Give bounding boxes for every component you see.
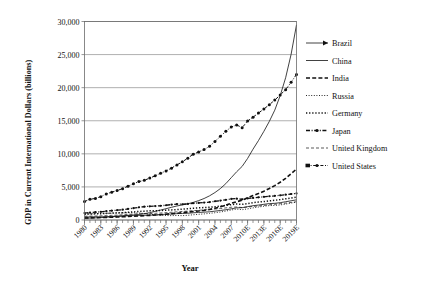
data-point [111,210,113,212]
data-point [214,200,216,202]
legend-label-united-kingdom: United Kingdom [332,144,388,153]
data-point [165,169,168,172]
x-tick-label: 2001 [186,223,203,240]
legend-marker-dot [315,164,318,167]
x-tick-label: 2019E [281,223,302,244]
data-point [241,126,244,129]
data-point [160,205,162,207]
data-series-group [83,25,298,219]
data-point [252,116,255,119]
x-tick-label: 1989 [121,223,138,240]
chart-legend: BrazilChinaIndiaRussiaGermanyJapanUnited… [306,39,388,171]
data-point [126,185,129,188]
data-point [257,112,260,115]
data-point [138,206,140,208]
data-point [284,88,287,91]
data-point [187,203,189,205]
data-point [154,205,156,207]
data-point [181,160,184,163]
y-tick-label: 10,000 [58,150,80,159]
legend-label-china: China [332,57,352,66]
data-point [105,192,108,195]
data-point [121,209,123,211]
chart-figure: 05,00010,00015,00020,00025,00030,000 198… [0,0,429,282]
data-point [186,157,189,160]
data-point [230,125,233,128]
data-point [290,193,292,195]
data-point [268,103,271,106]
y-axis-ticks: 05,00010,00015,00020,00025,00030,000 [58,18,85,226]
data-point [197,150,200,153]
data-point [100,211,102,213]
data-point [88,198,91,201]
x-tick-label: 1986 [104,223,121,240]
data-point [279,93,282,96]
data-point [268,195,270,197]
data-point [246,197,248,199]
data-point [154,174,157,177]
legend-label-japan: Japan [332,127,351,136]
data-point [224,130,227,133]
data-point [213,140,216,143]
data-point [252,197,254,199]
x-tick-label: 2010E [232,223,253,244]
data-point [236,198,238,200]
legend-arrow-icon [323,40,328,45]
data-point [208,145,211,148]
legend-marker-square [306,164,311,168]
data-point [159,172,162,175]
y-tick-label: 15,000 [58,117,80,126]
y-tick-label: 30,000 [58,18,80,27]
legend-label-germany: Germany [332,109,363,118]
data-point [192,153,195,156]
x-tick-label: 1995 [153,223,170,240]
data-point [170,203,172,205]
data-point [121,187,124,190]
data-point [148,177,151,180]
legend-marker-dot [315,129,318,132]
data-point [110,191,113,194]
x-tick-label: 1980 [72,223,89,240]
data-point [208,201,210,203]
data-point [274,195,276,197]
data-point [192,202,194,204]
x-tick-label: 1998 [170,223,187,240]
data-point [132,182,135,185]
data-point [219,135,222,138]
data-point [273,99,276,102]
data-point [203,201,205,203]
data-point [230,198,232,200]
chart-svg: 05,00010,00015,00020,00025,00030,000 198… [0,0,429,282]
series-line-united-states [85,74,297,201]
data-point [176,203,178,205]
x-tick-label: 2016E [264,223,285,244]
x-axis-ticks: 1980198319861989199219951998200120042007… [72,220,301,243]
data-point [165,204,167,206]
data-point [241,198,243,200]
data-point [225,199,227,201]
y-tick-label: 0 [76,216,80,225]
data-point [99,195,102,198]
x-tick-label: 2013E [248,223,269,244]
x-tick-label: 1983 [88,223,105,240]
legend-label-india: India [332,74,349,83]
x-tick-label: 1992 [137,223,154,240]
data-point [143,206,145,208]
data-point [203,148,206,151]
data-point [257,196,259,198]
data-point [94,197,97,200]
y-tick-label: 20,000 [58,84,80,93]
y-axis-title: GDP in Current International Dollars (bi… [24,60,33,225]
data-point [263,196,265,198]
data-point [262,108,265,111]
y-tick-label: 5,000 [62,183,80,192]
legend-label-brazil: Brazil [332,39,353,48]
data-point [290,81,293,84]
legend-label-united-states: United States [332,162,376,171]
data-point [181,203,183,205]
legend-label-russia: Russia [332,92,354,101]
data-point [285,194,287,196]
data-point [235,123,238,126]
x-axis-title: Year [181,263,198,273]
data-point [198,202,200,204]
